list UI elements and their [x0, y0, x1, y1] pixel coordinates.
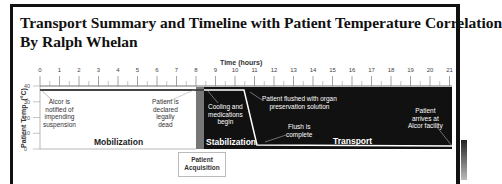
annotation-arrives: Patientarrives atAlcor facility: [408, 107, 443, 130]
annotation-flush-complete: Flush iscomplete: [286, 123, 312, 138]
annotation-flushed: Patient flushed with organpreservation s…: [262, 95, 337, 110]
annotation-declared-dead: Patient isdeclaredlegallydead: [152, 98, 179, 128]
annotation-cooling: Cooling andmedicationsbegin: [208, 103, 243, 126]
phase-transport: Transport: [333, 136, 372, 146]
phase-stabilization: Stabilization: [206, 137, 256, 147]
tick-marks: [40, 76, 450, 86]
phase-patient-acquisition: PatientAcquisition: [178, 152, 226, 177]
acquisition-band: [196, 87, 204, 149]
phase-mobilization: Mobilization: [94, 137, 143, 147]
annotation-alcor-notified: Alcor isnotified ofimpendingsuspension: [43, 98, 76, 128]
y-tick-marks: [33, 86, 40, 149]
